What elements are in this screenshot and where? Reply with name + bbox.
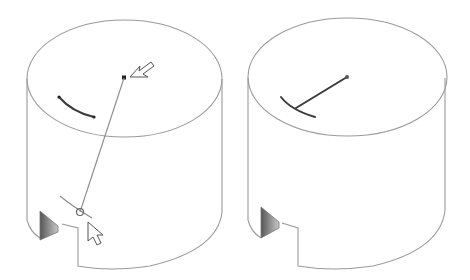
center-point — [345, 75, 349, 79]
body-left-edge — [27, 79, 40, 238]
body-left-edge — [248, 78, 261, 238]
cursor-bottom-icon — [88, 222, 103, 245]
cylinder-after-drawing — [235, 0, 470, 280]
body-right-edge — [282, 78, 445, 269]
panel-before: Selecting arc endpoint and drawing a lin… — [0, 0, 235, 280]
arc-endpoint-end — [92, 115, 95, 118]
body-right-edge — [62, 79, 222, 269]
cursor-top-icon — [130, 62, 154, 77]
notch-shaded-face — [261, 207, 279, 238]
arc-endpoint-start — [57, 95, 60, 98]
notch-shaded-face — [40, 211, 58, 240]
guide-line — [80, 78, 124, 212]
line-to-center — [296, 77, 347, 108]
panel-after: Result: line from arc to center — [235, 0, 470, 280]
sketch-arc — [59, 97, 94, 117]
bottom-edge-arc — [60, 196, 92, 218]
cylinder-before-drawing — [0, 0, 235, 280]
